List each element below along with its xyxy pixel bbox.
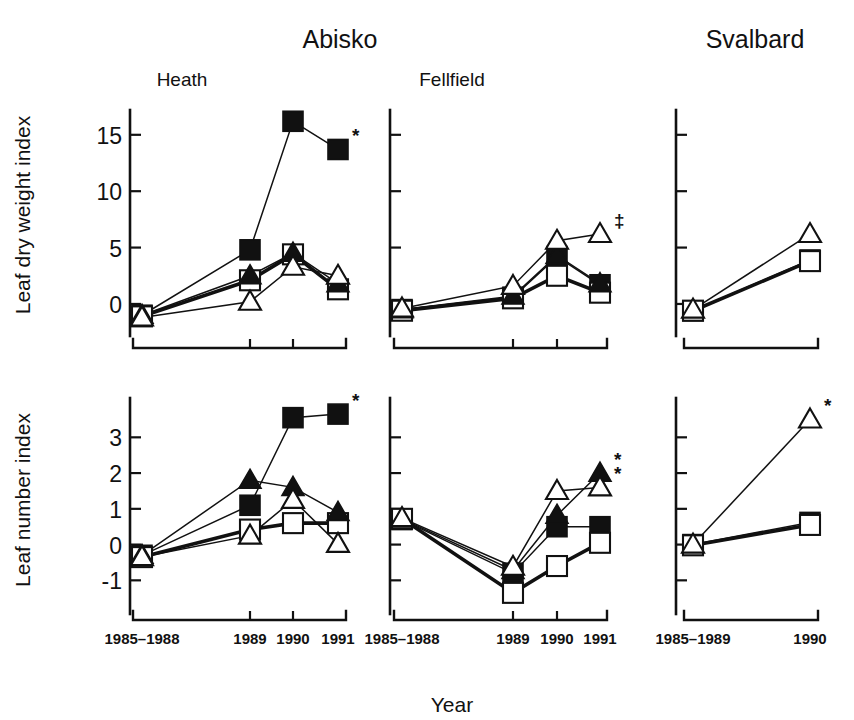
data-point-filled-square bbox=[283, 408, 303, 428]
y-tick-label: 1 bbox=[109, 497, 122, 523]
y-tick-label: 0 bbox=[109, 533, 122, 559]
significance-marker: * bbox=[352, 390, 360, 411]
y-tick-label: 0 bbox=[109, 292, 122, 318]
figure-background bbox=[0, 0, 854, 720]
x-tick-label: 1985–1988 bbox=[104, 630, 179, 647]
data-point-open-square bbox=[800, 515, 820, 535]
data-point-filled-square bbox=[328, 139, 348, 159]
x-tick-label: 1990 bbox=[793, 630, 826, 647]
y-tick-label: 2 bbox=[109, 461, 122, 487]
significance-marker: * bbox=[824, 395, 832, 416]
x-tick-label: 1989 bbox=[496, 630, 529, 647]
x-tick-label: 1991 bbox=[321, 630, 354, 647]
xaxis-title: Year bbox=[431, 693, 473, 716]
x-tick-label: 1985–1988 bbox=[364, 630, 439, 647]
y-tick-label: -1 bbox=[102, 568, 122, 594]
data-point-open-square bbox=[590, 533, 610, 553]
significance-marker: ‡ bbox=[614, 210, 625, 231]
panel-title-heath: Heath bbox=[157, 69, 208, 90]
y-tick-label: 15 bbox=[96, 123, 122, 149]
data-point-open-square bbox=[283, 513, 303, 533]
leaf-index-figure: Abisko Svalbard Heath Fellfield Leaf dry… bbox=[0, 0, 854, 720]
panel-title-fellfield: Fellfield bbox=[419, 69, 484, 90]
x-tick-label: 1991 bbox=[583, 630, 616, 647]
data-point-open-square bbox=[503, 583, 523, 603]
y-tick-label: 3 bbox=[109, 425, 122, 451]
y-tick-label: 10 bbox=[96, 179, 122, 205]
data-point-open-square bbox=[800, 251, 820, 271]
data-point-filled-square bbox=[240, 240, 260, 260]
data-point-filled-square bbox=[328, 404, 348, 424]
x-tick-label: 1990 bbox=[276, 630, 309, 647]
data-point-open-square bbox=[547, 266, 567, 286]
yaxis-title-leaf-number: Leaf number index bbox=[11, 413, 34, 587]
significance-marker: * bbox=[352, 125, 360, 146]
data-point-filled-square bbox=[240, 495, 260, 515]
x-tick-label: 1990 bbox=[540, 630, 573, 647]
x-tick-label: 1985–1989 bbox=[655, 630, 730, 647]
data-point-open-square bbox=[547, 556, 567, 576]
x-tick-label: 1989 bbox=[233, 630, 266, 647]
data-point-filled-square bbox=[283, 111, 303, 131]
region-title-svalbard: Svalbard bbox=[706, 25, 805, 53]
y-tick-label: 5 bbox=[109, 236, 122, 262]
yaxis-title-dry-weight: Leaf dry weight index bbox=[11, 115, 34, 314]
significance-marker: * bbox=[614, 463, 622, 484]
region-title-abisko: Abisko bbox=[302, 25, 377, 53]
